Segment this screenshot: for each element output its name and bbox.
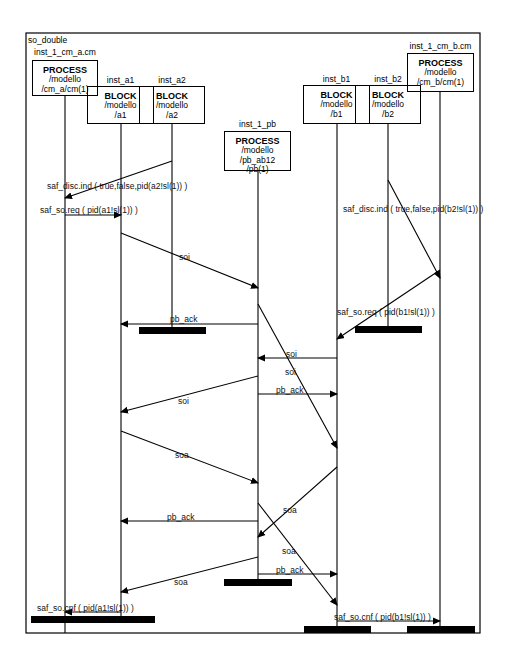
instance-path-line: /pb(1) xyxy=(225,165,290,175)
message-arrow xyxy=(258,304,337,448)
message-label: soa xyxy=(283,506,297,515)
message-label: soa xyxy=(174,578,188,587)
message-label: saf_so.req ( pid(a1!sl(1)) ) xyxy=(40,206,138,215)
message-arrow xyxy=(121,557,258,592)
instance-stop-b2 xyxy=(355,326,422,333)
message-label: soi xyxy=(285,368,296,377)
instance-name-pb: inst_1_pb xyxy=(239,120,276,129)
instance-name-a2: inst_a2 xyxy=(158,76,185,85)
message-label: soi xyxy=(179,253,190,262)
instance-path-line: /b2 xyxy=(356,110,420,120)
message-label: pb_ack xyxy=(276,386,303,395)
instance-name-cm_a: inst_1_cm_a.cm xyxy=(34,48,96,57)
instance-box-a2[interactable]: BLOCK/modello/a2 xyxy=(139,86,205,124)
instance-stop-cm_b xyxy=(407,626,475,633)
instance-box-cm_b[interactable]: PROCESS/modello/cm_b/cm(1) xyxy=(407,53,474,92)
instance-stop-pb xyxy=(224,579,292,586)
message-arrow xyxy=(258,467,337,537)
message-arrow xyxy=(65,161,172,198)
message-label: pb_ack xyxy=(276,566,303,575)
message-label: saf_so.req ( pid(b1!sl(1)) ) xyxy=(337,308,435,317)
message-arrow xyxy=(388,180,440,278)
instance-path-line: /cm_b/cm(1) xyxy=(408,78,473,88)
diagram-canvas xyxy=(0,0,506,664)
instance-name-b2: inst_b2 xyxy=(374,75,401,84)
message-label: saf_so.cnf ( pid(b1!sl(1)) ) xyxy=(334,613,431,622)
message-arrow xyxy=(258,503,337,605)
instance-name-b1: inst_b1 xyxy=(323,75,350,84)
message-arrow xyxy=(121,431,258,483)
message-label: soi xyxy=(286,350,297,359)
message-label: soa xyxy=(175,451,189,460)
message-label: saf_disc.ind ( true,false,pid(b2!sl(1)) … xyxy=(343,205,483,214)
message-label: saf_so.cnf ( pid(a1!sl(1)) ) xyxy=(37,604,134,613)
instance-path-line: /a2 xyxy=(140,111,204,121)
instance-box-pb[interactable]: PROCESS/modello/pb_ab12/pb(1) xyxy=(224,131,291,171)
message-label: soa xyxy=(282,547,296,556)
instance-stop-b1 xyxy=(304,626,371,633)
message-label: saf_disc.ind ( true,false,pid(a2!sl(1)) … xyxy=(47,182,187,191)
message-label: pb_ack xyxy=(167,513,194,522)
sequence-diagram: so_double inst_1_cm_a.cmPROCESS/modello/… xyxy=(0,0,506,664)
message-label: soi xyxy=(178,397,189,406)
message-label: pb_ack xyxy=(170,315,197,324)
instance-name-a1: inst_a1 xyxy=(107,76,134,85)
instance-stop-cm_a xyxy=(31,616,155,623)
instance-name-cm_b: inst_1_cm_b.cm xyxy=(410,42,472,51)
diagram-title: so_double xyxy=(28,35,67,45)
instance-stop-a2 xyxy=(139,327,206,334)
message-arrow xyxy=(121,376,258,412)
